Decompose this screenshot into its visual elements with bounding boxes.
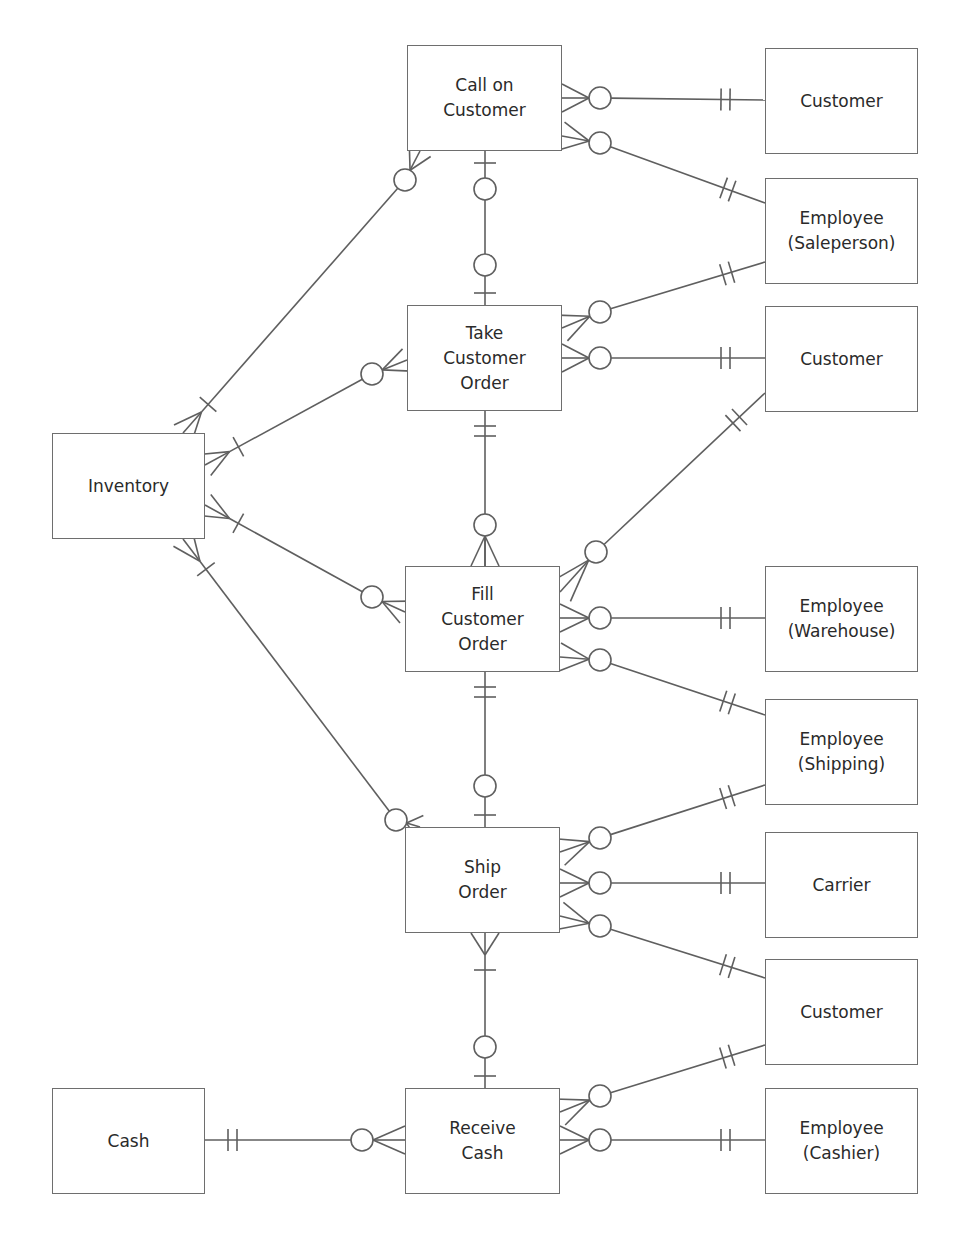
entity-label: Fill Customer Order [441, 582, 524, 657]
crows-foot-icon [560, 869, 589, 883]
entity-label: Employee (Saleperson) [788, 206, 896, 256]
crows-foot-icon [471, 933, 485, 955]
entity-label: Carrier [812, 873, 870, 898]
entity-label: Employee (Warehouse) [788, 594, 896, 644]
relationship-line [611, 1045, 765, 1093]
crows-foot-icon [560, 604, 589, 618]
crows-foot-icon [567, 316, 589, 341]
crows-foot-icon [560, 1140, 589, 1154]
optional-circle-icon [385, 809, 407, 831]
entity-label: Take Customer Order [443, 321, 526, 396]
optional-circle-icon [361, 363, 383, 385]
optional-circle-icon [589, 1085, 611, 1107]
entity-take-customer-order[interactable]: Take Customer Order [407, 305, 562, 411]
optional-circle-icon [589, 87, 611, 109]
entity-customer-3[interactable]: Customer [765, 959, 918, 1065]
entity-label: Ship Order [458, 855, 506, 905]
crows-foot-icon [559, 141, 589, 150]
optional-circle-icon [351, 1129, 373, 1151]
optional-circle-icon [589, 132, 611, 154]
entity-fill-customer-order[interactable]: Fill Customer Order [405, 566, 560, 672]
relationship-line [610, 929, 765, 978]
entity-employee-warehouse[interactable]: Employee (Warehouse) [765, 566, 918, 672]
entity-label: Cash [108, 1129, 150, 1154]
crows-foot-icon [557, 923, 590, 929]
entity-label: Customer [800, 89, 883, 114]
crows-foot-icon [559, 659, 589, 671]
crows-foot-icon [485, 933, 499, 955]
entity-call-on-customer[interactable]: Call on Customer [407, 45, 562, 151]
entity-receive-cash[interactable]: Receive Cash [405, 1088, 560, 1194]
relationship-line [610, 147, 765, 203]
entity-employee-cashier[interactable]: Employee (Cashier) [765, 1088, 918, 1194]
crows-foot-icon [555, 1099, 590, 1100]
crows-foot-icon [560, 1100, 590, 1112]
relationship-line [610, 663, 765, 715]
optional-circle-icon [589, 347, 611, 369]
crows-foot-icon [562, 316, 590, 328]
relationship-line [604, 393, 765, 544]
entity-label: Call on Customer [443, 73, 526, 123]
entity-customer-2[interactable]: Customer [765, 306, 918, 412]
crows-foot-icon [560, 883, 589, 897]
crows-foot-icon [211, 452, 230, 476]
crows-foot-icon [555, 839, 589, 842]
crows-foot-icon [471, 536, 485, 566]
crows-foot-icon [485, 536, 499, 566]
optional-circle-icon [361, 586, 383, 608]
crows-foot-icon [562, 344, 589, 358]
relationship-line [230, 379, 363, 451]
entity-employee-shipping[interactable]: Employee (Shipping) [765, 699, 918, 805]
cardinality-bar-icon [720, 178, 728, 199]
optional-circle-icon [585, 541, 607, 563]
entity-inventory[interactable]: Inventory [52, 433, 205, 539]
crows-foot-icon [407, 815, 424, 823]
crows-foot-icon [560, 618, 589, 632]
crows-foot-icon [373, 1126, 405, 1140]
entity-label: Employee (Shipping) [798, 727, 885, 777]
optional-circle-icon [589, 872, 611, 894]
entity-label: Receive Cash [449, 1116, 516, 1166]
entity-carrier[interactable]: Carrier [765, 832, 918, 938]
crows-foot-icon [373, 1140, 405, 1154]
entity-ship-order[interactable]: Ship Order [405, 827, 560, 933]
relationship-line [611, 262, 765, 309]
optional-circle-icon [474, 1036, 496, 1058]
relationship-line [611, 98, 765, 100]
crows-foot-icon [211, 494, 230, 518]
entity-label: Customer [800, 347, 883, 372]
cardinality-bar-icon [728, 181, 736, 202]
relationship-line [230, 519, 363, 592]
optional-circle-icon [589, 827, 611, 849]
optional-circle-icon [589, 915, 611, 937]
entity-cash[interactable]: Cash [52, 1088, 205, 1194]
optional-circle-icon [589, 301, 611, 323]
crows-foot-icon [382, 602, 400, 623]
crows-foot-icon [382, 349, 402, 370]
optional-circle-icon [589, 649, 611, 671]
relationship-line [610, 785, 765, 835]
entity-label: Customer [800, 1000, 883, 1025]
crows-foot-icon [562, 358, 589, 372]
optional-circle-icon [474, 178, 496, 200]
crows-foot-icon [560, 1126, 589, 1140]
entity-customer-1[interactable]: Customer [765, 48, 918, 154]
entity-label: Employee (Cashier) [799, 1116, 883, 1166]
crows-foot-icon [565, 1100, 590, 1125]
optional-circle-icon [474, 254, 496, 276]
optional-circle-icon [474, 775, 496, 797]
optional-circle-icon [589, 607, 611, 629]
crows-foot-icon [562, 84, 589, 98]
optional-circle-icon [589, 1129, 611, 1151]
crows-foot-icon [570, 560, 588, 601]
optional-circle-icon [394, 169, 416, 191]
entity-employee-saleperson[interactable]: Employee (Saleperson) [765, 178, 918, 284]
crows-foot-icon [560, 560, 589, 592]
crows-foot-icon [562, 98, 589, 112]
entity-label: Inventory [88, 474, 169, 499]
optional-circle-icon [474, 514, 496, 536]
